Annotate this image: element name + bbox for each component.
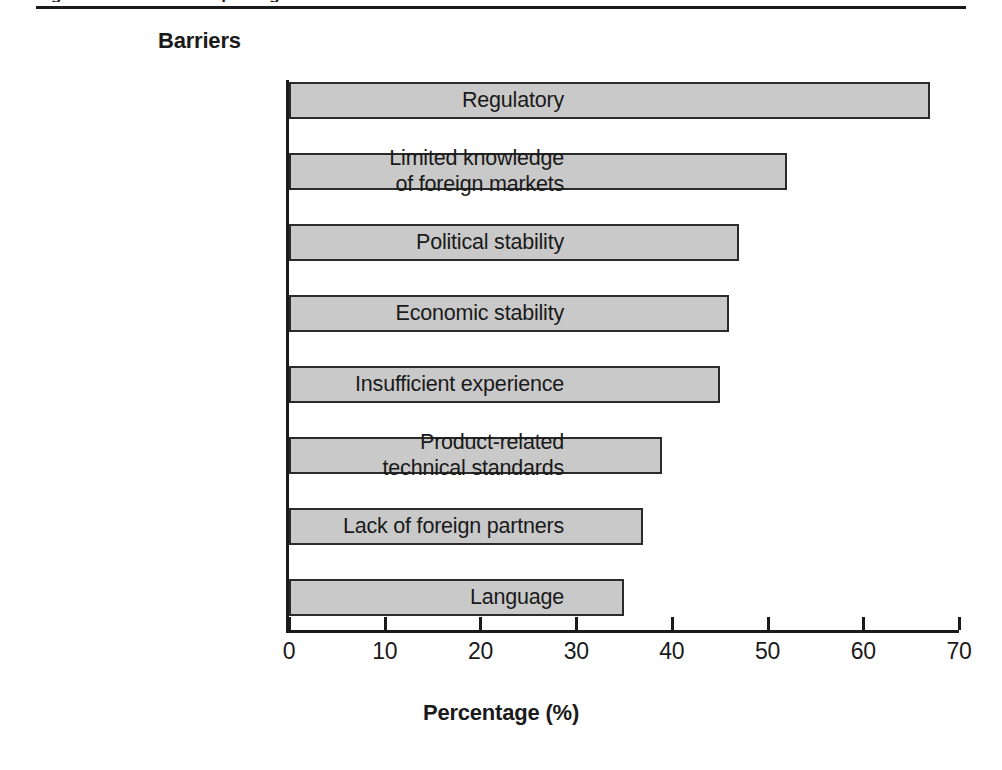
x-axis-line	[286, 630, 959, 633]
x-axis-tick	[958, 617, 961, 630]
y-axis-group-title: Barriers	[158, 28, 241, 54]
category-label: Lack of foreign partners	[0, 513, 564, 539]
x-axis-tick-label: 30	[536, 638, 616, 665]
header-divider	[36, 6, 966, 9]
x-axis-tick-label: 60	[823, 638, 903, 665]
x-axis-tick	[671, 617, 674, 630]
x-axis-tick-label: 70	[919, 638, 999, 665]
category-label: Product-related technical standards	[0, 429, 564, 481]
x-axis-title: Percentage (%)	[0, 700, 1002, 726]
category-label: Language	[0, 584, 564, 610]
x-axis-tick-label: 50	[728, 638, 808, 665]
x-axis-tick	[479, 617, 482, 630]
category-label: Regulatory	[0, 87, 564, 113]
figure-root: Figure 1. Barriers to exporting Barriers…	[0, 0, 1002, 770]
x-axis-tick	[384, 617, 387, 630]
plot-area: RegulatoryLimited knowledge of foreign m…	[289, 80, 959, 630]
x-axis-tick	[862, 617, 865, 630]
x-axis-tick-label: 0	[249, 638, 329, 665]
x-axis-tick	[288, 617, 291, 630]
figure-caption-clipped: Figure 1. Barriers to exporting	[36, 0, 966, 2]
x-axis-tick-label: 10	[345, 638, 425, 665]
category-label: Political stability	[0, 229, 564, 255]
category-label: Economic stability	[0, 300, 564, 326]
figure-caption-text: Figure 1. Barriers to exporting	[36, 0, 966, 2]
category-label: Insufficient experience	[0, 371, 564, 397]
x-axis-tick	[767, 617, 770, 630]
category-label: Limited knowledge of foreign markets	[0, 145, 564, 197]
x-axis-tick	[575, 617, 578, 630]
x-axis-tick-label: 40	[632, 638, 712, 665]
x-axis-tick-label: 20	[440, 638, 520, 665]
